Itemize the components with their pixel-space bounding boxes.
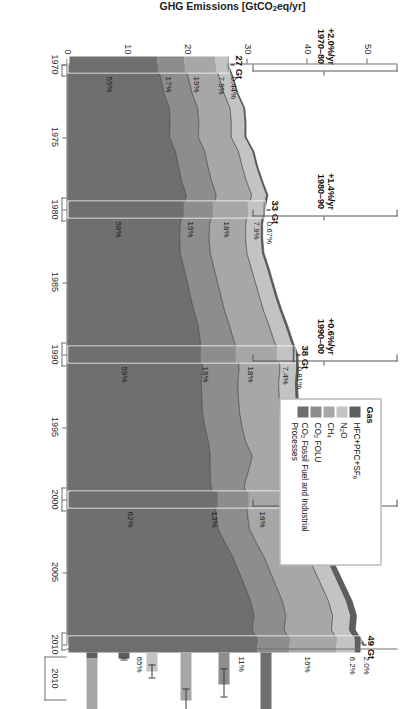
x-tick-label: 1970 (49, 54, 59, 74)
x-tick-label: 1995 (49, 416, 59, 436)
x-tick: 1995 (62, 427, 67, 428)
growth-rate-bracket-midtick (324, 216, 325, 220)
legend-item-label: CH4 (324, 422, 334, 437)
legend-swatch-icon (336, 406, 347, 417)
legend-swatch-icon (310, 406, 321, 417)
y-tick-label: 50 (362, 43, 373, 54)
growth-rate-value: +0.6%/yr (325, 314, 335, 358)
percent-share-label: 7.9% (216, 76, 225, 94)
legend-swatch-icon (297, 406, 308, 417)
legend-item-label: CO2 FOLU (311, 422, 321, 462)
uncertainty-panel-2010 (66, 652, 397, 704)
growth-rate-value: +2.0%/yr (325, 24, 335, 68)
x-tick-label: 2005 (49, 561, 59, 581)
growth-rate-bracket-midtick (324, 361, 325, 365)
uncertainty-bar-segment (86, 652, 97, 658)
panel-divider (66, 648, 397, 649)
x-tick-label: 2010 (49, 634, 59, 654)
x-tick: 1985 (62, 282, 67, 283)
error-bar (151, 664, 152, 677)
growth-rate-label: +1.4%/yr1980–90 (315, 169, 336, 213)
legend-swatch-icon (349, 406, 360, 417)
legend-title: Gas (364, 406, 374, 556)
percent-share-label: 58% (113, 221, 122, 237)
percent-share-label: 15% (185, 221, 194, 237)
error-bar (185, 688, 186, 709)
x-tick-label: 1980 (49, 199, 59, 219)
percent-share-label: 13% (209, 511, 218, 527)
y-tick-label: 20 (182, 43, 193, 54)
legend: Gas HFC+PFC+SF6N2OCH4CO2 FOLUCO2 Fossil … (279, 398, 381, 565)
decade-summary-segment (336, 636, 354, 652)
y-tick-label: 10 (122, 43, 133, 54)
decade-summary-segment (354, 636, 360, 652)
legend-item[interactable]: CO2 FOLU (310, 406, 321, 556)
y-tick: 50 (366, 58, 367, 63)
error-bar-cap (220, 696, 227, 697)
x-decade-bracket-right-panel (44, 656, 66, 700)
decade-summary-segment (69, 56, 157, 72)
x-decade-bracket (61, 632, 66, 649)
growth-rate-label: +0.6%/yr1990–00 (315, 314, 336, 358)
percent-share-label: 62% (125, 511, 134, 527)
legend-item[interactable]: CH4 (323, 406, 334, 556)
x-tick-label: 1975 (49, 126, 59, 146)
rotated-figure-wrapper: GHG Emissions [GtCO2eq/yr] 01020304050 1… (0, 0, 405, 709)
x-decade-bracket (61, 64, 66, 76)
decade-summary-segment (183, 201, 212, 217)
total-gt-tick (362, 644, 366, 645)
x-decade-bracket (61, 487, 66, 510)
legend-item[interactable]: HFC+PFC+SF6 (349, 406, 360, 556)
error-bar-cap (220, 668, 227, 669)
decade-summary-segment (217, 491, 248, 507)
x-decade-bracket (61, 197, 66, 220)
legend-item[interactable]: CO2 Fossil Fuel and Industrial Processes (289, 406, 308, 556)
legend-item-label: HFC+PFC+SF6 (350, 422, 360, 479)
decade-summary-bar (67, 635, 361, 653)
decade-summary-segment (290, 636, 337, 652)
error-bar (223, 668, 224, 697)
y-tick-label: 40 (302, 43, 313, 54)
figure-canvas: GHG Emissions [GtCO2eq/yr] 01020304050 1… (0, 0, 405, 709)
y-tick-label: 0 (62, 49, 73, 54)
total-gt-label: 27 Gt (233, 55, 244, 79)
decade-summary-segment (212, 201, 247, 217)
decade-summary-segment (70, 491, 218, 507)
y-tick: 30 (246, 58, 247, 63)
decade-summary-bar (67, 55, 229, 73)
error-bar-cap (148, 664, 155, 665)
percent-share-label: 16% (200, 366, 209, 382)
growth-rate-period: 1970–80 (315, 24, 325, 68)
x-tick-label: 1990 (49, 344, 59, 364)
x-tick-label: 1985 (49, 271, 59, 291)
uncertainty-bar (260, 652, 271, 709)
percent-share-label: 59% (119, 366, 128, 382)
percent-share-label: 18% (245, 366, 254, 382)
growth-rate-period: 1990–00 (315, 314, 325, 358)
x-tick: 2005 (62, 572, 67, 573)
legend-item[interactable]: N2O (336, 406, 347, 556)
error-bar-cap (182, 688, 189, 689)
decade-summary-segment (257, 636, 289, 652)
legend-swatch-icon (323, 406, 334, 417)
percent-share-label: 17% (163, 76, 172, 92)
percent-share-label: 7.9% (251, 221, 260, 239)
decade-summary-segment (68, 636, 257, 652)
uncertainty-bar (86, 652, 97, 709)
decade-summary-segment (69, 201, 183, 217)
growth-rate-value: +1.4%/yr (325, 169, 335, 213)
x-decade-bracket (61, 342, 66, 365)
percent-share-label: 7.4% (280, 366, 289, 384)
percent-share-label: 19% (191, 76, 200, 92)
x-tick: 1975 (62, 137, 67, 138)
legend-item-label: CO2 Fossil Fuel and Industrial Processes (289, 422, 308, 556)
total-gt-tick (230, 64, 234, 65)
growth-rate-label: +2.0%/yr1970–80 (315, 24, 336, 68)
decade-summary-segment (184, 56, 214, 72)
percent-share-label: 16% (257, 511, 266, 527)
decade-summary-segment (200, 346, 236, 362)
decade-summary-segment (215, 56, 228, 72)
percent-share-label: 55% (104, 76, 113, 92)
error-bar-cap (120, 659, 127, 660)
decade-summary-segment (157, 56, 184, 72)
